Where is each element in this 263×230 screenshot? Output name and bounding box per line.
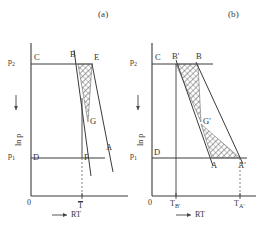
panel-b-point-A: A [211, 161, 217, 170]
figure-canvas [0, 0, 263, 230]
panel-b-origin-label: 0 [148, 199, 152, 207]
panel-b-ytick-p1: p1 [130, 152, 137, 160]
panel-a-ytick-p2-sub: 2 [12, 61, 15, 67]
panel-a-point-F: F [84, 153, 89, 162]
panel-b-x-axis-label: RT [195, 211, 205, 219]
panel-b-xtick-TAprime-sub: A' [239, 203, 245, 209]
panel-b-point-C: C [155, 53, 161, 62]
panel-a-x-axis-label: RT [71, 211, 81, 219]
figure-root: (a) p2 p1 ln p 0 T RT C B E G A D F (b) … [0, 0, 263, 230]
panel-a-point-G: G [90, 117, 96, 126]
panel-a-xtick-Tbar-label: T [78, 201, 83, 210]
panel-a-point-B: B [70, 50, 76, 59]
panel-a-ytick-p2: p2 [8, 58, 15, 66]
panel-b-ytick-p2: p2 [130, 58, 137, 66]
panel-b-point-Bprime: B' [172, 52, 179, 61]
panel-b-point-B: B [196, 52, 202, 61]
panel-b-point-Aprime: A' [238, 161, 246, 170]
panel-b-y-axis-label: ln p [136, 134, 145, 146]
panel-a-ytick-p1: p1 [8, 152, 15, 160]
panel-a-label: (a) [98, 10, 108, 19]
panel-b-point-D: D [154, 148, 160, 157]
panel-b-ytick-p1-sub: 1 [134, 155, 137, 161]
panel-a-origin-label: 0 [27, 199, 31, 207]
panel-a-point-C: C [34, 53, 40, 62]
panel-a-xtick-Tbar-text: T [78, 201, 83, 210]
panel-b-label: (b) [228, 10, 239, 19]
panel-a-point-A: A [106, 143, 112, 152]
panel-a-plot [16, 43, 128, 215]
panel-b-xtick-TBprime-sub: B' [175, 203, 180, 209]
panel-a-point-E: E [94, 53, 99, 62]
panel-b-plot [138, 43, 256, 215]
panel-b-point-Gprime: G' [203, 117, 211, 126]
panel-b-ytick-p2-sub: 2 [134, 61, 137, 67]
panel-a-y-axis-label: ln p [14, 134, 23, 146]
panel-a-ytick-p1-sub: 1 [12, 155, 15, 161]
panel-b-xtick-TAprime-label: TA' [234, 200, 245, 208]
panel-a-point-D: D [33, 153, 39, 162]
panel-b-xtick-TBprime-label: TB' [170, 200, 180, 208]
